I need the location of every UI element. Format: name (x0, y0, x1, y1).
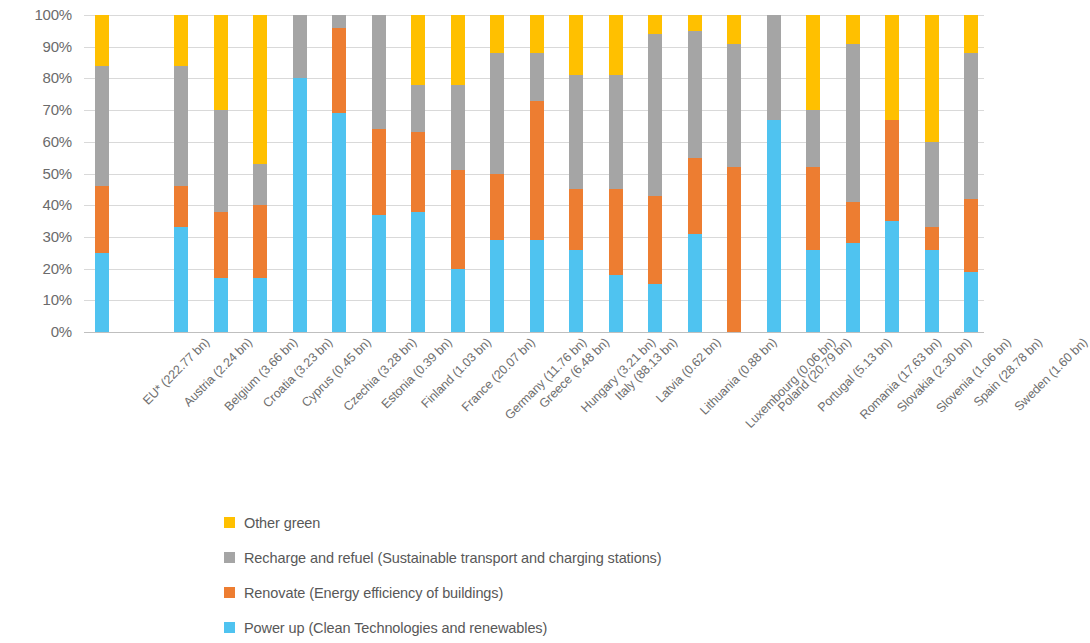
bar-segment (214, 110, 228, 211)
bar-segment (846, 15, 860, 44)
bar-czechia[interactable] (293, 15, 307, 332)
bar-segment (688, 234, 702, 332)
bar-segment (411, 132, 425, 211)
bar-segment (530, 15, 544, 53)
bar-france[interactable] (411, 15, 425, 332)
bar-segment (964, 53, 978, 199)
bar-segment (806, 15, 820, 110)
bar-segment (490, 15, 504, 53)
bar-segment (253, 278, 267, 332)
bar-segment (885, 15, 899, 120)
bar-segment (95, 186, 109, 253)
bar-eu[interactable] (95, 15, 109, 332)
bar-segment (648, 196, 662, 285)
bar-segment (885, 221, 899, 332)
legend-label: Other green (244, 515, 320, 531)
legend-swatch-icon (224, 587, 235, 598)
bar-segment (964, 199, 978, 272)
bar-belgium[interactable] (174, 15, 188, 332)
legend-item[interactable]: Recharge and refuel (Sustainable transpo… (224, 540, 924, 575)
bar-segment (688, 158, 702, 234)
bar-finland[interactable] (372, 15, 386, 332)
y-axis-tick-label: 100% (34, 7, 72, 22)
y-axis-tick-label: 50% (43, 166, 72, 181)
y-axis-tick-label: 20% (43, 261, 72, 276)
bar-segment (530, 240, 544, 332)
bar-segment (411, 15, 425, 85)
plot-canvas (84, 15, 984, 332)
bar-segment (451, 15, 465, 85)
bar-greece[interactable] (490, 15, 504, 332)
bar-portugal[interactable] (767, 15, 781, 332)
bar-segment (530, 53, 544, 101)
bar-segment (964, 15, 978, 53)
bars-layer (84, 15, 984, 332)
bar-romania[interactable] (806, 15, 820, 332)
bar-segment (648, 34, 662, 196)
bar-segment (648, 15, 662, 34)
bar-slovakia[interactable] (846, 15, 860, 332)
bar-segment (846, 243, 860, 332)
bar-segment (530, 101, 544, 240)
bar-luxembourg[interactable] (688, 15, 702, 332)
legend-item[interactable]: Renovate (Energy efficiency of buildings… (224, 575, 924, 610)
bar-segment (925, 227, 939, 249)
bar-segment (727, 44, 741, 168)
y-axis-tick-label: 60% (43, 134, 72, 149)
bar-cyprus[interactable] (253, 15, 267, 332)
bar-lithuania[interactable] (648, 15, 662, 332)
legend-item[interactable]: Other green (224, 505, 924, 540)
bar-segment (372, 129, 386, 215)
bar-slovenia[interactable] (885, 15, 899, 332)
x-axis-line (84, 332, 984, 333)
bar-latvia[interactable] (609, 15, 623, 332)
bar-sweden[interactable] (964, 15, 978, 332)
bar-segment (174, 66, 188, 186)
bar-segment (95, 253, 109, 332)
bar-segment (727, 15, 741, 44)
bar-segment (293, 15, 307, 78)
bar-segment (174, 15, 188, 66)
bar-segment (490, 240, 504, 332)
y-axis-tick-label: 90% (43, 39, 72, 54)
bar-segment (727, 167, 741, 332)
bar-segment (95, 66, 109, 186)
bar-croatia[interactable] (214, 15, 228, 332)
bar-italy[interactable] (569, 15, 583, 332)
bar-segment (451, 269, 465, 332)
bar-segment (925, 15, 939, 142)
bar-segment (609, 189, 623, 275)
bar-segment (569, 250, 583, 332)
bar-segment (609, 275, 623, 332)
bar-germany[interactable] (451, 15, 465, 332)
bar-segment (253, 205, 267, 278)
bar-segment (372, 215, 386, 332)
bar-poland[interactable] (727, 15, 741, 332)
bar-segment (609, 75, 623, 189)
bar-segment (569, 15, 583, 75)
bar-segment (688, 31, 702, 158)
bar-segment (688, 15, 702, 31)
bar-spain[interactable] (925, 15, 939, 332)
x-axis-labels: EU* (222.77 bn)Austria (2.24 bn)Belgium … (84, 336, 984, 466)
bar-segment (214, 212, 228, 279)
y-axis-tick-label: 10% (43, 292, 72, 307)
legend-item[interactable]: Power up (Clean Technologies and renewab… (224, 610, 924, 643)
bar-segment (174, 186, 188, 227)
bar-estonia[interactable] (332, 15, 346, 332)
bar-segment (214, 15, 228, 110)
bar-segment (806, 167, 820, 249)
bar-segment (451, 85, 465, 171)
bar-austria[interactable] (135, 15, 149, 332)
bar-segment (332, 28, 346, 114)
bar-segment (372, 15, 386, 129)
bar-segment (332, 15, 346, 28)
bar-segment (569, 189, 583, 249)
y-axis: 100%90%80%70%60%50%40%30%20%10%0% (0, 0, 78, 345)
bar-hungary[interactable] (530, 15, 544, 332)
bar-segment (332, 113, 346, 332)
bar-segment (569, 75, 583, 189)
bar-segment (925, 250, 939, 332)
bar-segment (253, 164, 267, 205)
legend-swatch-icon (224, 622, 235, 633)
